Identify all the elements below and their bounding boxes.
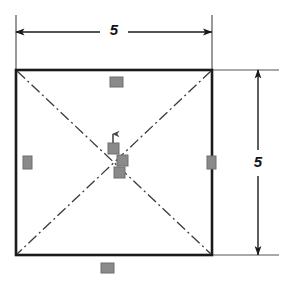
- right-edge-marker: [207, 156, 216, 169]
- center-marker-right: [117, 155, 128, 166]
- bottom-edge-marker: [101, 263, 114, 273]
- left-edge-marker: [23, 156, 32, 169]
- dimension-right: 5: [254, 70, 263, 255]
- technical-drawing-svg: 5 5: [0, 0, 284, 282]
- centerlines: [17, 71, 211, 254]
- center-marker-upper: [108, 143, 119, 154]
- center-marker-lower: [114, 167, 125, 178]
- annotation-markers: [23, 77, 216, 273]
- dimension-right-value: 5: [254, 153, 263, 170]
- top-edge-marker: [110, 77, 123, 87]
- dimension-top: 5: [16, 21, 212, 38]
- drawing-canvas: 5 5: [0, 0, 284, 282]
- extension-lines: [16, 15, 279, 255]
- dimension-top-value: 5: [110, 21, 119, 38]
